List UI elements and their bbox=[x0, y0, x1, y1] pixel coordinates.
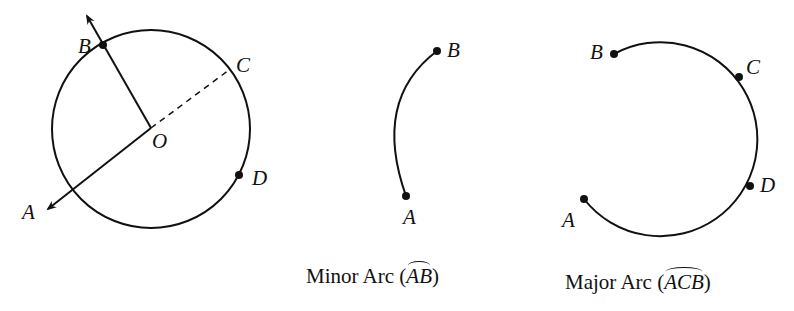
major-point-c bbox=[735, 73, 743, 81]
minor-caption-arc: AB bbox=[406, 266, 432, 287]
major-caption-arc: ACB bbox=[664, 272, 704, 293]
dashed-radius-oc bbox=[151, 70, 229, 128]
major-arc-path bbox=[584, 42, 757, 236]
major-label-c: C bbox=[746, 57, 760, 78]
figure-minor-arc bbox=[394, 47, 441, 200]
major-caption-prefix: Major Arc ( bbox=[565, 270, 664, 294]
major-arc-caption: Major Arc (ACB) bbox=[565, 272, 711, 293]
point-b bbox=[99, 41, 107, 49]
major-caption-suffix: ) bbox=[704, 270, 711, 294]
major-label-d: D bbox=[760, 175, 775, 196]
minor-label-b: B bbox=[447, 40, 460, 61]
major-point-d bbox=[746, 182, 754, 190]
minor-arc-path bbox=[394, 51, 437, 196]
figure-major-arc bbox=[580, 42, 757, 236]
minor-point-b bbox=[433, 47, 441, 55]
major-label-a: A bbox=[562, 210, 575, 231]
ray-ob bbox=[87, 16, 151, 128]
major-point-a bbox=[580, 195, 588, 203]
minor-caption-suffix: ) bbox=[432, 264, 439, 288]
minor-label-a: A bbox=[403, 207, 416, 228]
label-o: O bbox=[152, 131, 167, 152]
minor-caption-prefix: Minor Arc ( bbox=[306, 264, 406, 288]
label-c: C bbox=[236, 55, 250, 76]
minor-arc-caption: Minor Arc (AB) bbox=[306, 266, 439, 287]
point-d bbox=[235, 171, 243, 179]
major-label-b: B bbox=[590, 42, 603, 63]
label-d: D bbox=[252, 168, 267, 189]
label-b: B bbox=[78, 36, 91, 57]
major-point-b bbox=[610, 50, 618, 58]
ray-oa bbox=[48, 128, 151, 209]
minor-point-a bbox=[402, 192, 410, 200]
label-a: A bbox=[22, 202, 35, 223]
